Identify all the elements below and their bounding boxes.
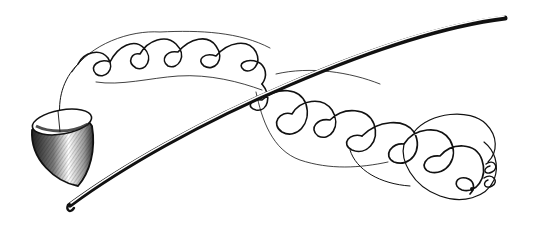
spiral-trace	[60, 31, 497, 199]
cup	[30, 105, 93, 186]
circumnutation-drawing	[0, 0, 541, 226]
trace-end-dot	[470, 187, 474, 191]
illustration	[0, 0, 541, 226]
